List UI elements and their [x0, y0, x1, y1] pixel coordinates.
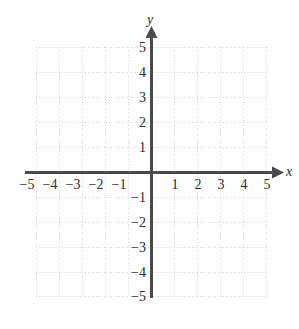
x-tick-label--1: −1: [108, 178, 130, 192]
y-axis: [146, 26, 158, 298]
x-tick-label-2: 2: [187, 178, 209, 192]
x-tick-label-1: 1: [164, 178, 186, 192]
y-tick-label-5: 5: [126, 41, 146, 55]
x-tick-label-4: 4: [233, 178, 255, 192]
y-tick-label-4: 4: [126, 66, 146, 80]
coordinate-plane-figure: −5 −4 −3 −2 −1 1 2 3 4 5 5 4 3 2 1 −1 −2…: [0, 0, 299, 329]
y-tick-label-2: 2: [126, 116, 146, 130]
x-tick-label--4: −4: [39, 178, 61, 192]
y-tick-label--3: −3: [120, 241, 146, 255]
y-tick-label--2: −2: [120, 216, 146, 230]
y-axis-arrowhead: [146, 26, 158, 38]
y-tick-label-1: 1: [126, 141, 146, 155]
y-tick-label--1: −1: [120, 191, 146, 205]
y-tick-label--4: −4: [120, 266, 146, 280]
x-tick-label--5: −5: [16, 178, 38, 192]
y-tick-label--5: −5: [120, 290, 146, 304]
x-tick-label-3: 3: [210, 178, 232, 192]
y-axis-label: y: [147, 13, 153, 27]
y-tick-label-3: 3: [126, 91, 146, 105]
coordinate-plane-graphic: [0, 0, 299, 329]
x-axis-arrowhead: [272, 167, 284, 179]
x-tick-label--3: −3: [62, 178, 84, 192]
x-tick-label--2: −2: [85, 178, 107, 192]
x-axis-label: x: [286, 165, 292, 179]
x-tick-label-5: 5: [256, 178, 278, 192]
